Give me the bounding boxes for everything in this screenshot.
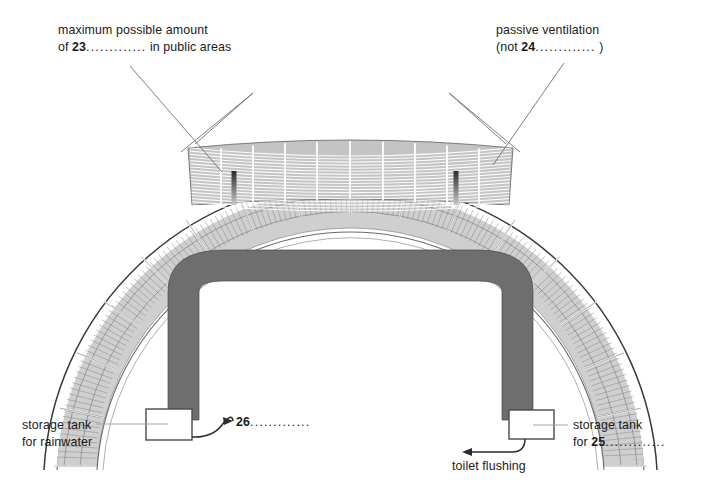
label-ventilation-line2: (not 24............. )	[496, 39, 603, 56]
question-number-25: 25	[591, 435, 605, 449]
label-output-26: 26.............	[236, 414, 310, 431]
stand-marker-right	[454, 171, 459, 205]
tank25-answer-dots: .............	[605, 435, 665, 449]
label-amount-line2: of 23............. in public areas	[58, 39, 231, 56]
label-maximum-amount: maximum possible amount of 23...........…	[58, 22, 231, 56]
tank25-prefix: for	[573, 435, 591, 449]
question-number-23: 23	[72, 40, 86, 54]
ventilation-suffix: )	[596, 40, 604, 54]
question-number-24: 24	[521, 40, 535, 54]
diagram-page: maximum possible amount of 23...........…	[0, 0, 701, 503]
label-toilet-flushing: toilet flushing	[452, 458, 526, 475]
leader-line-roof-right	[449, 93, 520, 152]
label-amount-line1: maximum possible amount	[58, 22, 231, 39]
ventilation-answer-dots: .............	[535, 40, 595, 54]
ventilation-prefix: (not	[496, 40, 521, 54]
label-storage-tank-25: storage tank for 25.............	[573, 417, 666, 451]
label-ventilation-line1: passive ventilation	[496, 22, 603, 39]
label-rainwater-line1: storage tank	[22, 417, 92, 434]
label-passive-ventilation: passive ventilation (not 24.............…	[496, 22, 603, 56]
amount-prefix: of	[58, 40, 72, 54]
label-storage-tank-rainwater: storage tank for rainwater	[22, 417, 92, 451]
label-rainwater-line2: for rainwater	[22, 434, 92, 451]
stand-marker-left	[232, 171, 237, 205]
amount-suffix: in public areas	[146, 40, 231, 54]
amount-answer-dots: .............	[86, 40, 146, 54]
leader-line-24	[493, 63, 564, 165]
leader-line-23	[130, 66, 222, 172]
label-tank25-line2: for 25.............	[573, 434, 666, 451]
output26-answer-dots: .............	[250, 415, 310, 429]
question-number-26: 26	[236, 415, 250, 429]
label-tank25-line1: storage tank	[573, 417, 666, 434]
